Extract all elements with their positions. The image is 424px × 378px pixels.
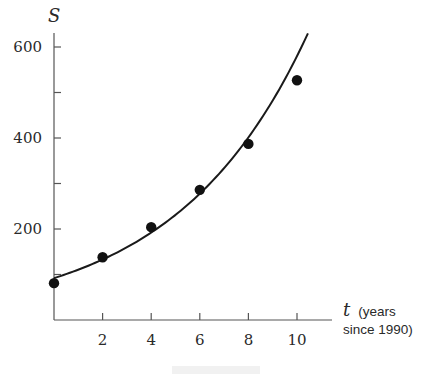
x-tick-label: 10: [287, 331, 306, 349]
fitted-curve: [54, 33, 308, 278]
x-tick-label: 2: [98, 331, 108, 349]
data-point: [195, 185, 205, 195]
chart: S 200400600 246810 t (years since 1990): [0, 0, 424, 378]
x-tick-label: 8: [244, 331, 254, 349]
data-point: [146, 222, 156, 232]
x-tick-label: 6: [195, 331, 205, 349]
data-point: [292, 75, 302, 85]
y-tick-label: 200: [13, 220, 42, 238]
caption-smudge: [172, 366, 260, 374]
data-point: [49, 278, 59, 288]
data-point: [243, 139, 253, 149]
y-tick-label: 400: [13, 129, 42, 147]
data-point: [97, 252, 107, 262]
y-tick-labels: 200400600: [13, 38, 42, 238]
y-ticks: [54, 47, 61, 275]
x-tick-label: 4: [146, 331, 156, 349]
data-points: [49, 75, 302, 288]
x-tick-labels: 246810: [98, 331, 307, 349]
x-axis-variable: t: [343, 299, 351, 320]
y-axis-title: S: [48, 5, 60, 26]
x-ticks: [103, 313, 297, 320]
x-axis-unit-line2: since 1990): [343, 322, 413, 337]
x-axis-title: t (years: [343, 299, 396, 320]
x-axis-unit-line1: (years: [358, 304, 396, 319]
y-tick-label: 600: [13, 38, 42, 56]
